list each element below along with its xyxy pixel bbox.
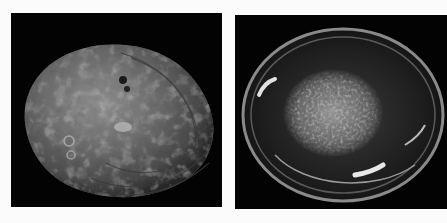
shell-interior-illustration — [235, 15, 447, 209]
photo-shell-interior — [235, 15, 447, 209]
photo-shell-exterior — [11, 13, 222, 207]
shell-exterior-illustration — [11, 13, 222, 207]
